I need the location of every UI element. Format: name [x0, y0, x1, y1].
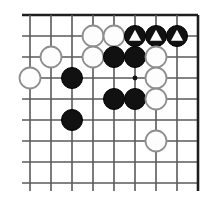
black-stone-g8-triangle[interactable] — [146, 26, 167, 47]
white-stone-body — [83, 47, 104, 68]
white-stone-a6[interactable] — [20, 68, 41, 89]
white-stone-body — [146, 47, 167, 68]
star-points — [133, 76, 138, 81]
black-stone-body — [104, 47, 125, 68]
black-stone-f7[interactable] — [125, 47, 146, 68]
white-stone-e8[interactable] — [104, 26, 125, 47]
white-stone-d7[interactable] — [83, 47, 104, 68]
go-board-diagram — [0, 0, 200, 212]
black-stone-body — [62, 68, 83, 89]
white-stone-b7[interactable] — [41, 47, 62, 68]
white-stone-body — [146, 131, 167, 152]
black-stone-body — [62, 110, 83, 131]
white-stone-body — [41, 47, 62, 68]
black-stone-c6[interactable] — [62, 68, 83, 89]
white-stone-d8[interactable] — [83, 26, 104, 47]
white-stone-g3[interactable] — [146, 131, 167, 152]
black-stone-e5[interactable] — [104, 89, 125, 110]
black-stone-f5[interactable] — [125, 89, 146, 110]
go-board-canvas[interactable] — [0, 0, 200, 212]
black-stone-body — [125, 89, 146, 110]
white-stone-g7[interactable] — [146, 47, 167, 68]
black-stone-e7[interactable] — [104, 47, 125, 68]
black-stone-body — [104, 89, 125, 110]
white-stone-g5[interactable] — [146, 89, 167, 110]
white-stone-body — [146, 89, 167, 110]
black-stone-h8-triangle[interactable] — [167, 26, 188, 47]
white-stone-body — [83, 26, 104, 47]
black-stone-f8-triangle[interactable] — [125, 26, 146, 47]
star-point — [133, 76, 138, 81]
black-stone-body — [125, 47, 146, 68]
white-stone-body — [104, 26, 125, 47]
white-stone-g6[interactable] — [146, 68, 167, 89]
stones-layer[interactable] — [20, 26, 188, 152]
black-stone-c4[interactable] — [62, 110, 83, 131]
white-stone-body — [146, 68, 167, 89]
white-stone-body — [20, 68, 41, 89]
